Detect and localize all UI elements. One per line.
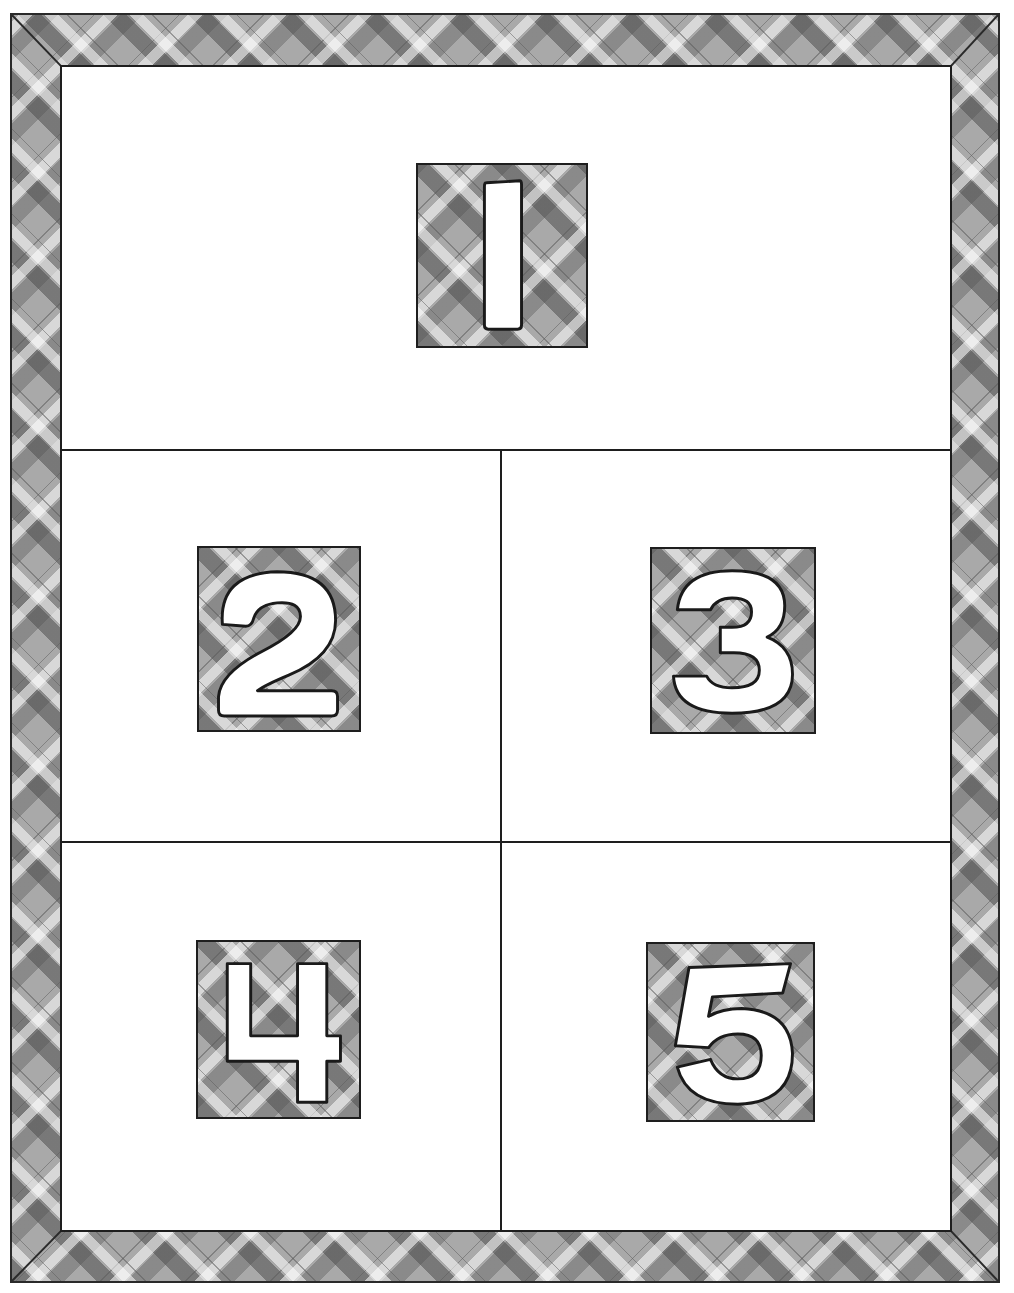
number-tile-1[interactable]: 1 [416, 163, 588, 348]
number-tile-3[interactable]: 3 [650, 547, 816, 734]
number-tile-5[interactable]: 5 [646, 942, 815, 1122]
digit-4-icon [198, 942, 359, 1117]
number-tile-4[interactable]: 4 [196, 940, 361, 1119]
digit-2-icon [199, 548, 359, 730]
digit-5-icon [648, 944, 813, 1120]
digit-1-icon [418, 165, 586, 346]
digit-3-icon [652, 549, 814, 732]
number-tile-2[interactable]: 2 [197, 546, 361, 732]
